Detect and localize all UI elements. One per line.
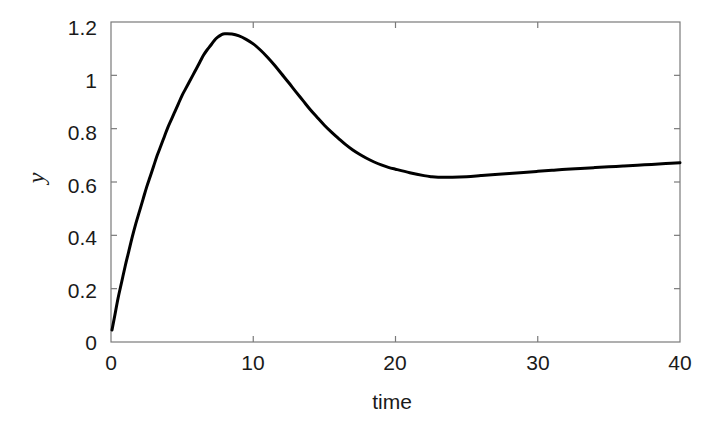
xtick-label-20: 20 <box>383 352 406 373</box>
ytick-label-0.6: 0.6 <box>68 175 97 196</box>
ytick-label-0.4: 0.4 <box>68 227 97 248</box>
xtick-label-40: 40 <box>668 352 691 373</box>
ytick-label-1: 1 <box>85 70 97 91</box>
xtick-label-30: 30 <box>526 352 549 373</box>
data-series-line <box>112 34 680 330</box>
x-axis-label: time <box>372 390 412 414</box>
xtick-label-0: 0 <box>105 352 117 373</box>
ytick-label-0.2: 0.2 <box>68 280 97 301</box>
xtick-label-10: 10 <box>241 352 264 373</box>
y-axis-label: y <box>23 173 50 184</box>
figure-canvas: 1.2 1 0.8 0.6 0.4 0.2 0 0 10 20 30 40 ti… <box>0 0 717 435</box>
ytick-label-0: 0 <box>85 332 97 353</box>
ytick-label-1.2: 1.2 <box>68 17 97 38</box>
ytick-label-0.8: 0.8 <box>68 122 97 143</box>
